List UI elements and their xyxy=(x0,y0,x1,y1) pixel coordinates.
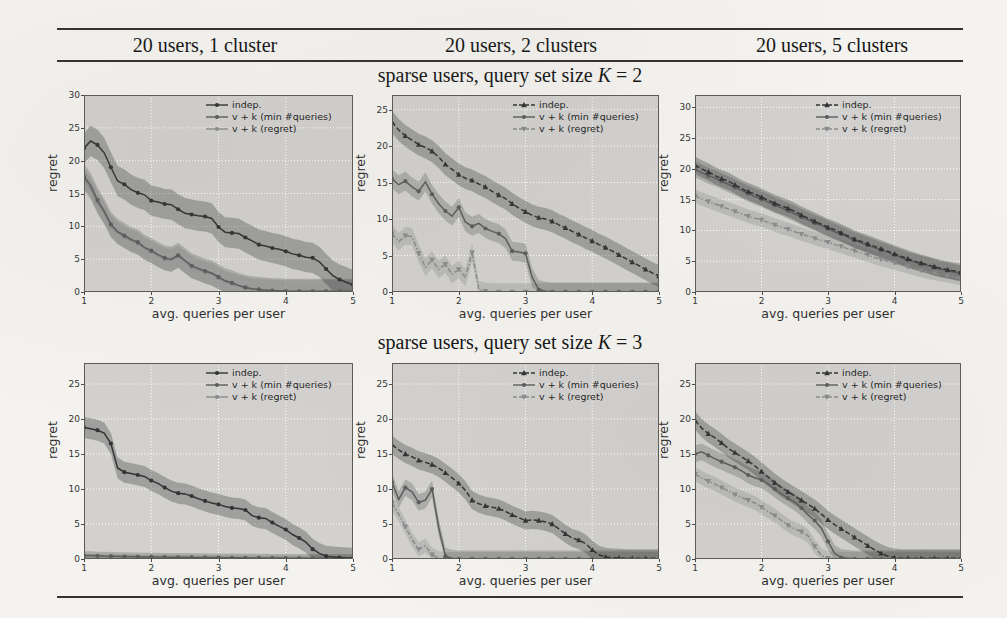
y-tick-label: 25 xyxy=(370,105,388,115)
y-tick-mark xyxy=(81,95,84,96)
x-tick-mark xyxy=(895,559,896,562)
x-tick-mark xyxy=(353,559,354,562)
y-tick-label: 25 xyxy=(673,379,691,389)
legend-marker-icon xyxy=(815,380,839,390)
y-tick-label: 25 xyxy=(62,379,80,389)
y-tick-mark xyxy=(81,128,84,129)
y-tick-mark xyxy=(389,110,392,111)
legend-item: indep. xyxy=(205,99,332,110)
y-tick-label: 10 xyxy=(62,221,80,231)
x-tick-mark xyxy=(84,292,85,295)
x-tick-label: 5 xyxy=(343,563,363,573)
y-tick-mark xyxy=(81,419,84,420)
legend-label: indep. xyxy=(232,367,262,378)
y-tick-label: 10 xyxy=(673,484,691,494)
x-tick-mark xyxy=(286,559,287,562)
y-axis-label: regret xyxy=(353,143,367,203)
x-tick-label: 4 xyxy=(276,563,296,573)
y-tick-label: 25 xyxy=(62,123,80,133)
y-tick-label: 15 xyxy=(62,189,80,199)
subplot-k3-2clusters: 051015202512345avg. queries per userregr… xyxy=(392,363,659,559)
x-tick-label: 3 xyxy=(818,563,838,573)
x-tick-label: 4 xyxy=(276,296,296,306)
x-tick-mark xyxy=(219,292,220,295)
legend: indep.v + k (min #queries)v + k (regret) xyxy=(512,367,639,402)
y-tick-mark xyxy=(389,146,392,147)
paper-figure-page: 20 users, 1 cluster 20 users, 2 clusters… xyxy=(0,0,1007,618)
legend-item: v + k (regret) xyxy=(815,123,942,134)
legend-marker-icon xyxy=(205,100,229,110)
y-tick-label: 30 xyxy=(62,90,80,100)
x-axis-label: avg. queries per user xyxy=(84,306,353,321)
x-tick-label: 2 xyxy=(141,563,161,573)
row-title-k2: sparse users, query set size K = 2 xyxy=(57,64,963,87)
x-tick-mark xyxy=(762,559,763,562)
y-axis-label: regret xyxy=(656,143,670,203)
legend-marker-icon xyxy=(815,100,839,110)
y-tick-mark xyxy=(81,259,84,260)
bottom-rule xyxy=(57,596,963,598)
x-tick-mark xyxy=(286,292,287,295)
y-tick-mark xyxy=(692,200,695,201)
y-tick-mark xyxy=(81,384,84,385)
y-tick-mark xyxy=(692,524,695,525)
y-tick-label: 5 xyxy=(62,519,80,529)
x-tick-mark xyxy=(659,559,660,562)
y-tick-label: 10 xyxy=(370,214,388,224)
x-tick-mark xyxy=(659,292,660,295)
x-tick-mark xyxy=(828,559,829,562)
x-tick-label: 4 xyxy=(582,563,602,573)
legend-item: indep. xyxy=(815,99,942,110)
legend-item: indep. xyxy=(512,367,639,378)
legend-label: v + k (min #queries) xyxy=(842,379,942,390)
y-tick-label: 20 xyxy=(370,414,388,424)
subplot-k2-5clusters: 05101520253012345avg. queries per userre… xyxy=(695,95,961,292)
x-tick-label: 2 xyxy=(449,563,469,573)
legend-label: v + k (min #queries) xyxy=(842,111,942,122)
y-tick-mark xyxy=(389,524,392,525)
legend-marker-icon xyxy=(815,124,839,134)
legend-item: indep. xyxy=(205,367,332,378)
x-tick-mark xyxy=(526,292,527,295)
x-tick-mark xyxy=(151,292,152,295)
legend-item: v + k (min #queries) xyxy=(512,111,639,122)
y-axis-label: regret xyxy=(45,143,59,203)
y-tick-mark xyxy=(81,489,84,490)
y-tick-mark xyxy=(692,107,695,108)
legend-marker-icon xyxy=(512,100,536,110)
y-tick-mark xyxy=(692,230,695,231)
y-tick-label: 25 xyxy=(673,133,691,143)
x-tick-label: 5 xyxy=(951,296,971,306)
x-tick-label: 2 xyxy=(752,296,772,306)
legend-label: v + k (min #queries) xyxy=(539,379,639,390)
x-axis-label: avg. queries per user xyxy=(392,306,659,321)
x-tick-mark xyxy=(459,559,460,562)
x-axis-label: avg. queries per user xyxy=(695,573,961,588)
x-tick-label: 4 xyxy=(885,296,905,306)
x-tick-label: 1 xyxy=(74,563,94,573)
legend-marker-icon xyxy=(815,112,839,122)
x-tick-label: 5 xyxy=(649,296,669,306)
y-tick-mark xyxy=(389,489,392,490)
x-tick-label: 5 xyxy=(649,563,669,573)
header-rule xyxy=(57,60,963,62)
y-tick-label: 10 xyxy=(62,484,80,494)
y-tick-mark xyxy=(389,454,392,455)
y-tick-label: 20 xyxy=(62,414,80,424)
x-tick-mark xyxy=(592,292,593,295)
y-tick-mark xyxy=(81,454,84,455)
y-tick-mark xyxy=(692,169,695,170)
x-tick-mark xyxy=(895,292,896,295)
legend-label: v + k (regret) xyxy=(539,123,603,134)
legend-marker-icon xyxy=(205,392,229,402)
y-tick-mark xyxy=(389,219,392,220)
x-tick-label: 3 xyxy=(516,296,536,306)
y-tick-mark xyxy=(389,384,392,385)
y-axis-label: regret xyxy=(656,410,670,470)
legend-label: v + k (min #queries) xyxy=(539,111,639,122)
y-tick-mark xyxy=(81,161,84,162)
x-tick-label: 1 xyxy=(382,296,402,306)
x-tick-mark xyxy=(459,292,460,295)
x-tick-mark xyxy=(961,559,962,562)
legend-item: indep. xyxy=(512,99,639,110)
